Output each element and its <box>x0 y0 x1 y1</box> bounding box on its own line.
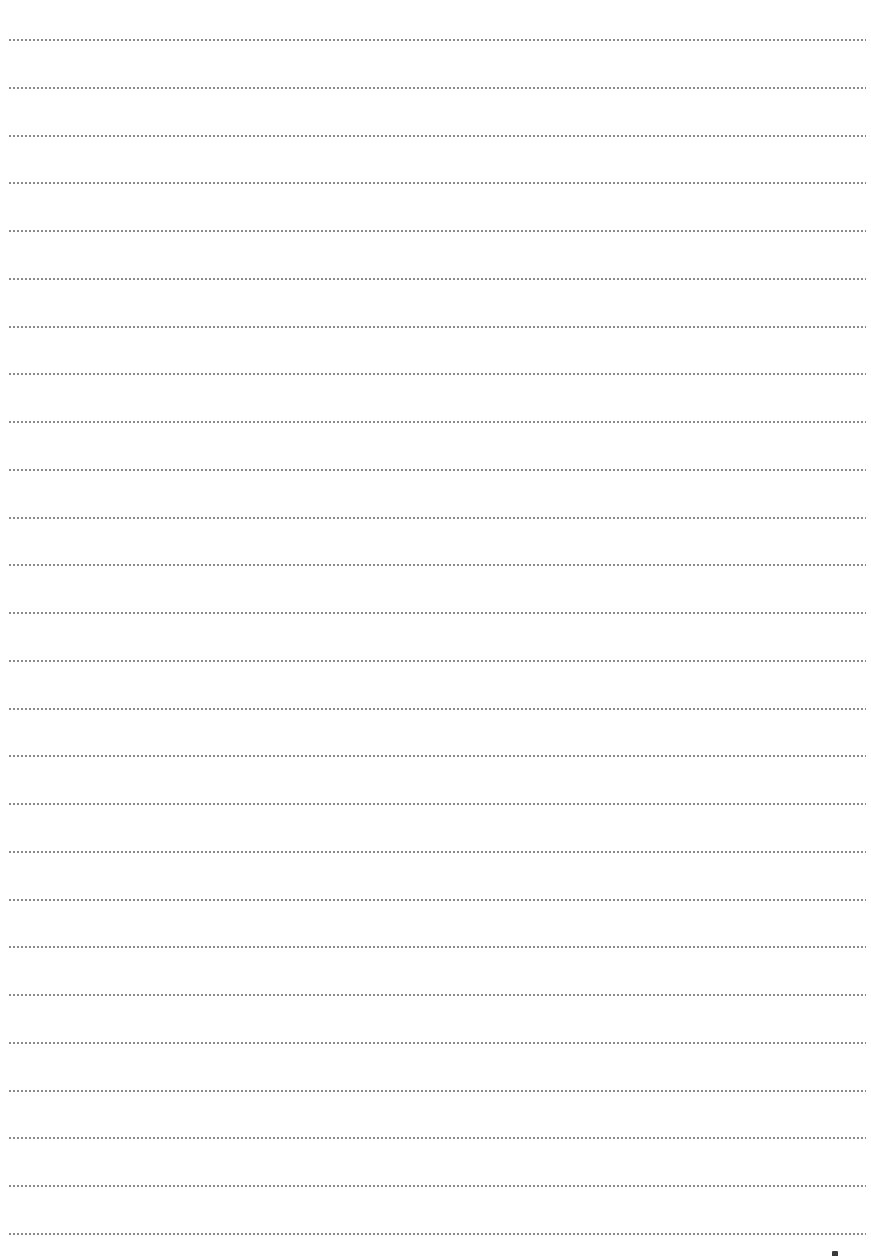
corner-mark-fragment <box>832 1251 838 1256</box>
dotted-rule-line <box>8 1185 866 1187</box>
dotted-rule-line <box>8 230 866 232</box>
dotted-rule-line <box>8 278 866 280</box>
dotted-rule-line <box>8 469 866 471</box>
dotted-rule-line <box>8 39 866 41</box>
dotted-rule-line <box>8 87 866 89</box>
dotted-rule-line <box>8 182 866 184</box>
dotted-rule-line <box>8 135 866 137</box>
dotted-rule-line <box>8 708 866 710</box>
dotted-rule-line <box>8 1137 866 1139</box>
dotted-rule-line <box>8 564 866 566</box>
dotted-rule-line <box>8 421 866 423</box>
dotted-rule-line <box>8 660 866 662</box>
dotted-rule-line <box>8 1090 866 1092</box>
dotted-rule-line <box>8 373 866 375</box>
dotted-rule-line <box>8 851 866 853</box>
dotted-rule-line <box>8 612 866 614</box>
dotted-rule-line <box>8 803 866 805</box>
dotted-rule-line <box>8 899 866 901</box>
dotted-rule-line <box>8 517 866 519</box>
dotted-rule-line <box>8 994 866 996</box>
dotted-rule-line <box>8 1042 866 1044</box>
dotted-rule-line <box>8 1233 866 1235</box>
dotted-writing-sheet <box>0 0 871 1256</box>
dotted-rule-line <box>8 946 866 948</box>
dotted-rule-line <box>8 755 866 757</box>
dotted-rule-line <box>8 326 866 328</box>
